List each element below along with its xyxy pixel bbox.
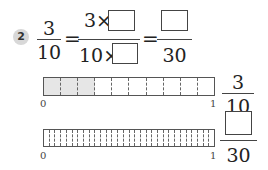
- bar-segment: [78, 78, 95, 95]
- fraction1-denominator: 10: [36, 42, 62, 62]
- bar-segment: [95, 78, 112, 95]
- bar-segment: [164, 78, 181, 95]
- fraction3-bar: [157, 39, 192, 40]
- fraction2-denominator-blank[interactable]: [112, 43, 138, 64]
- bar1-start-label: 0: [40, 98, 46, 109]
- bar1-end-label: 1: [210, 98, 216, 109]
- fraction2-numerator-blank[interactable]: [108, 10, 135, 31]
- fraction3-numerator-blank[interactable]: [161, 10, 188, 31]
- bar2-start-label: 0: [40, 150, 46, 161]
- bar-segment: [198, 78, 214, 95]
- problem-number-badge: 2: [13, 29, 29, 45]
- bar-segment: [44, 78, 61, 95]
- fraction3-denominator: 30: [157, 45, 192, 65]
- fraction1-numerator: 3: [38, 18, 60, 38]
- fraction2-bar: [78, 39, 140, 40]
- bar2-fraction-bar: [220, 140, 257, 141]
- fraction1-bar: [37, 39, 61, 40]
- bar-segment: [129, 78, 146, 95]
- bar2-fraction-numerator-blank[interactable]: [225, 111, 252, 135]
- bar-segment: [209, 130, 214, 146]
- bar-segment: [61, 78, 78, 95]
- bar-segment: [112, 78, 129, 95]
- bar-segment: [181, 78, 198, 95]
- tenths-bar: [43, 77, 215, 96]
- bar2-end-label: 1: [210, 150, 216, 161]
- bar1-fraction-bar: [222, 93, 254, 94]
- bar-segment: [147, 78, 164, 95]
- bar2-fraction-denominator: 30: [220, 145, 257, 165]
- bar1-fraction-numerator: 3: [222, 72, 254, 92]
- thirtieths-bar: [43, 129, 215, 147]
